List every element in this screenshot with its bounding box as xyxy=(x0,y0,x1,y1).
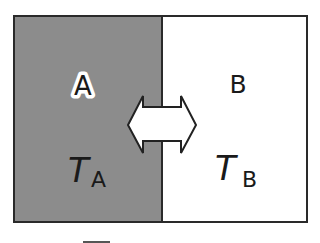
temperature-a-symbol: T xyxy=(68,150,91,190)
svg-text:A: A xyxy=(74,71,92,101)
temperature-a-subscript: A xyxy=(91,167,106,192)
system-b-label: B xyxy=(229,70,246,99)
system-a-label: A A xyxy=(74,71,92,101)
thermal-contact-diagram: A A B T A T B xyxy=(0,0,320,243)
temperature-b-symbol: T xyxy=(215,148,238,188)
diagram-figure: A A B T A T B xyxy=(0,0,320,243)
temperature-b-subscript: B xyxy=(242,167,257,192)
